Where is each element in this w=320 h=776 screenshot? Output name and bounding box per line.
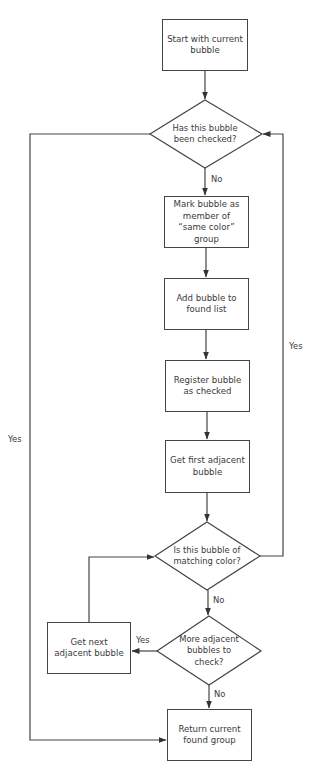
edge-label-match-yes: Yes: [289, 341, 303, 351]
match-decision-text: Is this bubble of matching color?: [173, 545, 241, 568]
edge-label-more-no: No: [214, 689, 225, 699]
mark-node-label: Mark bubble as member of “same color” gr…: [169, 199, 244, 245]
get-first-node: Get first adjacent bubble: [165, 440, 250, 493]
edge-label-checked-yes: Yes: [8, 434, 22, 444]
start-node: Start with current bubble: [162, 19, 248, 71]
mark-node: Mark bubble as member of “same color” gr…: [164, 196, 249, 248]
add-node: Add bubble to found list: [164, 278, 249, 330]
add-node-label: Add bubble to found list: [169, 293, 244, 316]
match-decision-label: Is this bubble of matching color?: [173, 536, 241, 576]
register-node-label: Register bubble as checked: [170, 375, 245, 398]
more-decision-text: More adjacent bubbles to check?: [173, 634, 245, 669]
get-first-node-label: Get first adjacent bubble: [170, 455, 245, 478]
get-next-node-label: Get next adjacent bubble: [52, 637, 126, 660]
edge-label-more-yes: Yes: [136, 635, 150, 645]
return-node: Return current found group: [167, 709, 252, 761]
checked-decision-label: Has this bubble been checked?: [165, 118, 245, 150]
checked-decision-text: Has this bubble been checked?: [165, 123, 245, 146]
register-node: Register bubble as checked: [165, 360, 250, 412]
edge-label-checked-no: No: [211, 174, 222, 184]
more-decision-label: More adjacent bubbles to check?: [173, 631, 245, 671]
edge-label-match-no: No: [213, 595, 224, 605]
return-node-label: Return current found group: [172, 724, 247, 747]
get-next-node: Get next adjacent bubble: [47, 622, 131, 674]
start-node-label: Start with current bubble: [167, 34, 243, 57]
